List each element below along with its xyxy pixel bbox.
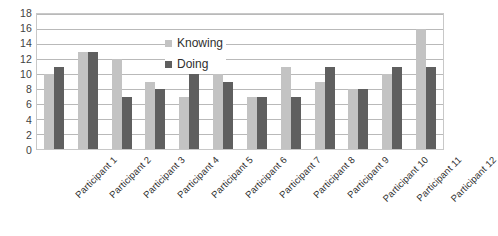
y-tick-label: 8 — [0, 84, 32, 94]
y-tick-label: 16 — [0, 23, 32, 33]
bar-doing — [122, 97, 132, 150]
legend-swatch-icon — [165, 40, 172, 47]
bar-knowing — [382, 74, 392, 149]
legend-label: Knowing — [177, 36, 223, 50]
y-tick-label: 6 — [0, 99, 32, 109]
bar-group — [105, 14, 139, 149]
bar-group — [240, 14, 274, 149]
y-tick-label: 12 — [0, 54, 32, 64]
y-tick-label: 0 — [0, 145, 32, 155]
bar-knowing — [315, 82, 325, 150]
y-tick-label: 10 — [0, 69, 32, 79]
bar-group — [375, 14, 409, 149]
bar-doing — [155, 89, 165, 149]
bar-doing — [358, 89, 368, 149]
bar-doing — [325, 67, 335, 150]
bar-knowing — [78, 52, 88, 150]
y-tick-label: 14 — [0, 38, 32, 48]
y-tick-label: 4 — [0, 115, 32, 125]
bars-layer — [37, 14, 443, 149]
bar-doing — [257, 97, 267, 150]
legend-label: Doing — [177, 57, 208, 71]
bar-doing — [392, 67, 402, 150]
y-axis: 181614121086420 — [0, 8, 32, 153]
bar-doing — [54, 67, 64, 150]
bar-doing — [291, 97, 301, 150]
caption-strip — [0, 226, 451, 236]
bar-group — [71, 14, 105, 149]
bar-doing — [426, 67, 436, 150]
legend-entry: Doing — [165, 54, 226, 74]
legend-swatch-icon — [165, 61, 172, 68]
bar-group — [37, 14, 71, 149]
bar-knowing — [416, 29, 426, 149]
bar-knowing — [247, 97, 257, 150]
chart-legend: KnowingDoing — [165, 33, 226, 75]
bar-group — [274, 14, 308, 149]
bar-knowing — [213, 74, 223, 149]
bar-group — [341, 14, 375, 149]
bar-knowing — [145, 82, 155, 150]
bar-group — [409, 14, 443, 149]
bar-doing — [88, 52, 98, 150]
bar-knowing — [281, 67, 291, 150]
bar-doing — [189, 67, 199, 150]
bar-knowing — [348, 89, 358, 149]
x-axis: Participant 1Participant 2Participant 3P… — [36, 150, 444, 220]
bar-doing — [223, 82, 233, 150]
legend-entry: Knowing — [165, 33, 226, 53]
bar-knowing — [44, 74, 54, 149]
bar-knowing — [112, 59, 122, 149]
plot-area: KnowingDoing — [36, 13, 444, 150]
bar-knowing — [179, 97, 189, 150]
y-tick-label: 18 — [0, 8, 32, 18]
y-tick-label: 2 — [0, 130, 32, 140]
bar-group — [308, 14, 342, 149]
